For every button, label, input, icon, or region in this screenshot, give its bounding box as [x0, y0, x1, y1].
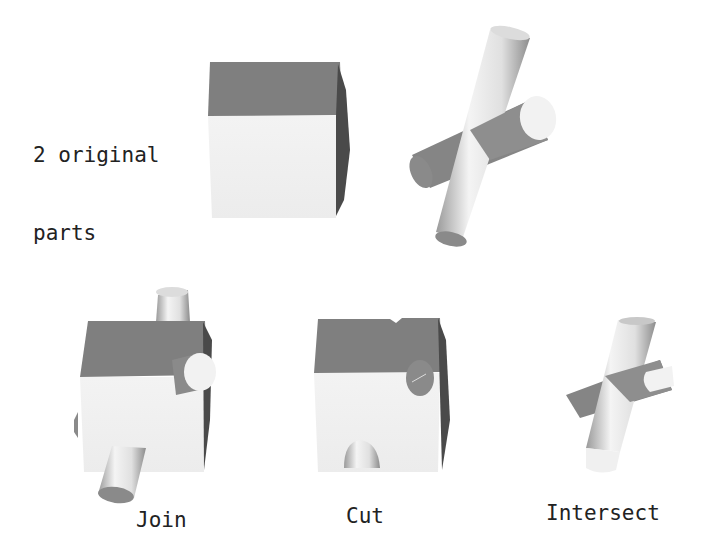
cut-result	[314, 318, 450, 472]
original-cube	[208, 62, 350, 218]
operation-label-intersect: Intersect	[546, 500, 660, 526]
cube-front-face	[208, 116, 338, 218]
original-crossed-cylinders	[405, 23, 560, 249]
operation-label-join: Join	[136, 507, 187, 533]
boolean-operations-diagram	[0, 0, 711, 547]
join-result	[74, 287, 216, 505]
intersect-result	[566, 317, 674, 473]
cube-top-face	[208, 62, 342, 116]
operation-label-cut: Cut	[346, 503, 384, 529]
cube-side-face	[336, 64, 350, 216]
